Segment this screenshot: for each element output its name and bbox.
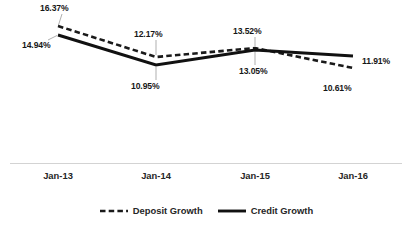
legend-item-deposit-growth[interactable]: Deposit Growth [99,201,203,219]
legend-label-credit-growth: Credit Growth [251,205,314,216]
x-tick-label-jan13: Jan-13 [43,170,73,181]
x-axis-line [10,163,402,164]
data-label-credit-3: 11.91% [362,56,390,66]
x-tick-label-jan16: Jan-16 [338,170,368,181]
series-line-deposit-growth [58,26,353,68]
legend-item-credit-growth[interactable]: Credit Growth [217,201,314,219]
data-label-deposit-1: 12.17% [134,29,163,39]
chart-container: 16.37% 12.17% 13.52% 10.61% 14.94% 10.95… [0,0,412,228]
x-tick-label-jan14: Jan-14 [141,170,171,181]
chart-legend: Deposit Growth Credit Growth [0,201,412,219]
data-label-deposit-3: 10.61% [323,83,352,93]
leader-line-deposit-0 [59,14,63,25]
solid-line-icon [217,201,247,219]
data-label-deposit-0: 16.37% [40,3,69,13]
data-label-credit-1: 10.95% [131,81,160,91]
data-label-credit-0: 14.94% [22,40,51,50]
data-label-credit-2: 13.05% [239,66,268,76]
x-axis-labels: Jan-13 Jan-14 Jan-15 Jan-16 [0,170,412,186]
dashed-line-icon [99,201,129,219]
x-tick-label-jan15: Jan-15 [240,170,270,181]
legend-label-deposit-growth: Deposit Growth [133,205,203,216]
data-label-deposit-2: 13.52% [233,26,262,36]
plot-area: 16.37% 12.17% 13.52% 10.61% 14.94% 10.95… [0,0,412,165]
